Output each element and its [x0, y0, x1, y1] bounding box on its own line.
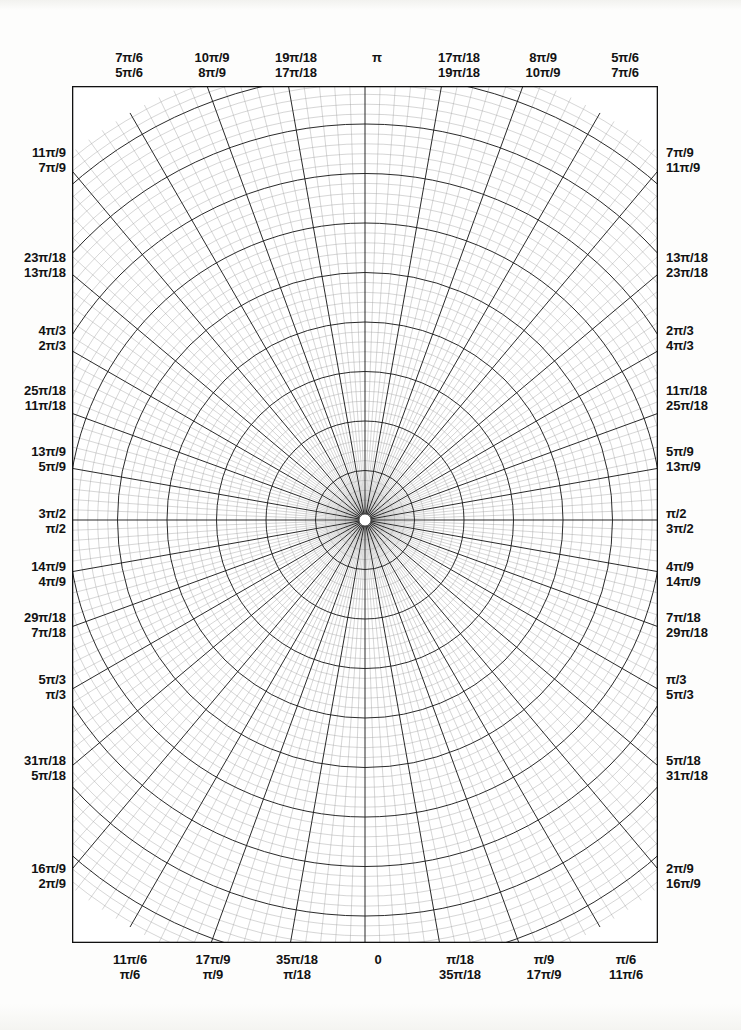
- angle-label-secondary: 14π/9: [666, 574, 701, 589]
- angle-label-primary: 5π/3: [38, 672, 66, 687]
- angle-label-secondary: 4π/3: [666, 338, 694, 353]
- angle-label-primary: π/3: [666, 672, 694, 687]
- angle-label-secondary: 7π/6: [611, 65, 639, 80]
- angle-label-secondary: 17π/9: [527, 967, 562, 982]
- angle-label-primary: 19π/18: [275, 50, 317, 65]
- angle-label-secondary: π/18: [276, 967, 318, 982]
- angle-label-secondary: 3π/2: [666, 521, 694, 536]
- angle-label-secondary: 13π/9: [666, 459, 701, 474]
- angle-label-primary: 7π/18: [666, 610, 708, 625]
- angle-label-bottom-4: π/1835π/18: [439, 952, 481, 982]
- angle-label-bottom-2: 35π/18π/18: [276, 952, 318, 982]
- angle-label-top-5: 8π/910π/9: [526, 50, 561, 80]
- angle-label-primary: 8π/9: [526, 50, 561, 65]
- angle-label-secondary: π/9: [196, 967, 231, 982]
- angle-label-left-6: 14π/94π/9: [31, 559, 66, 589]
- angle-label-primary: 31π/18: [24, 753, 66, 768]
- angle-label-primary: π/2: [666, 506, 694, 521]
- angle-label-secondary: π/2: [38, 521, 66, 536]
- angle-label-secondary: 7π/18: [24, 625, 66, 640]
- angle-label-secondary: π: [372, 50, 382, 65]
- angle-label-left-3: 25π/1811π/18: [24, 383, 66, 413]
- angle-label-right-10: 2π/916π/9: [666, 861, 701, 891]
- polar-grid-plot: [72, 86, 658, 943]
- angle-label-primary: 17π/18: [438, 50, 480, 65]
- angle-label-primary: 13π/9: [31, 444, 66, 459]
- angle-label-bottom-6: π/611π/6: [609, 952, 643, 982]
- angle-label-right-0: 7π/911π/9: [666, 145, 700, 175]
- angle-label-top-6: 5π/67π/6: [611, 50, 639, 80]
- angle-label-secondary: 5π/18: [24, 768, 66, 783]
- angle-label-primary: π/9: [527, 952, 562, 967]
- angle-label-primary: 23π/18: [24, 250, 66, 265]
- angle-label-primary: 5π/9: [666, 444, 701, 459]
- angle-label-left-7: 29π/187π/18: [24, 610, 66, 640]
- angle-label-right-7: 7π/1829π/18: [666, 610, 708, 640]
- angle-label-secondary: 2π/9: [31, 876, 66, 891]
- angle-label-primary: 16π/9: [31, 861, 66, 876]
- angle-label-bottom-3: 0: [374, 952, 381, 967]
- angle-label-primary: 14π/9: [31, 559, 66, 574]
- angle-label-secondary: 31π/18: [666, 768, 708, 783]
- angle-label-primary: 25π/18: [24, 383, 66, 398]
- angle-label-secondary: 2π/3: [38, 338, 66, 353]
- angle-label-secondary: 19π/18: [438, 65, 480, 80]
- angle-label-secondary: 11π/18: [24, 398, 66, 413]
- paper-sheet: 7π/65π/610π/98π/919π/1817π/18π17π/1819π/…: [0, 0, 741, 1030]
- angle-label-top-4: 17π/1819π/18: [438, 50, 480, 80]
- angle-label-bottom-0: 11π/6π/6: [113, 952, 147, 982]
- angle-label-secondary: 11π/6: [609, 967, 643, 982]
- angle-label-primary: 10π/9: [195, 50, 230, 65]
- angle-label-left-2: 4π/32π/3: [38, 323, 66, 353]
- angle-label-right-8: π/35π/3: [666, 672, 694, 702]
- angle-label-secondary: 7π/9: [32, 160, 66, 175]
- angle-label-primary: 17π/9: [196, 952, 231, 967]
- angle-label-secondary: 4π/9: [31, 574, 66, 589]
- angle-label-top-0: 7π/65π/6: [115, 50, 143, 80]
- angle-label-secondary: 13π/18: [24, 265, 66, 280]
- angle-label-bottom-1: 17π/9π/9: [196, 952, 231, 982]
- angle-label-secondary: 5π/3: [666, 687, 694, 702]
- angle-label-bottom-5: π/917π/9: [527, 952, 562, 982]
- angle-label-right-5: π/23π/2: [666, 506, 694, 536]
- angle-label-primary: 4π/9: [666, 559, 701, 574]
- angle-label-primary: 11π/9: [32, 145, 66, 160]
- angle-label-primary: 35π/18: [276, 952, 318, 967]
- angle-label-primary: 11π/18: [666, 383, 708, 398]
- angle-label-secondary: 29π/18: [666, 625, 708, 640]
- angle-label-primary: 2π/9: [666, 861, 701, 876]
- polar-grid-svg: [72, 86, 658, 943]
- angle-label-left-10: 16π/92π/9: [31, 861, 66, 891]
- angle-label-primary: 29π/18: [24, 610, 66, 625]
- angle-label-primary: 7π/9: [666, 145, 700, 160]
- angle-label-top-3: π: [372, 50, 382, 65]
- angle-label-top-1: 10π/98π/9: [195, 50, 230, 80]
- angle-label-secondary: 8π/9: [195, 65, 230, 80]
- angle-label-right-3: 11π/1825π/18: [666, 383, 708, 413]
- angle-label-secondary: 10π/9: [526, 65, 561, 80]
- angle-label-primary: 13π/18: [666, 250, 708, 265]
- angle-label-secondary: 5π/6: [115, 65, 143, 80]
- angle-label-primary: 0: [374, 952, 381, 967]
- angle-label-primary: π/18: [439, 952, 481, 967]
- angle-label-left-5: 3π/2π/2: [38, 506, 66, 536]
- angle-label-right-4: 5π/913π/9: [666, 444, 701, 474]
- angle-label-left-0: 11π/97π/9: [32, 145, 66, 175]
- angle-label-primary: 3π/2: [38, 506, 66, 521]
- angle-label-secondary: 23π/18: [666, 265, 708, 280]
- angle-label-primary: 5π/6: [611, 50, 639, 65]
- angle-label-secondary: π/6: [113, 967, 147, 982]
- angle-label-right-6: 4π/914π/9: [666, 559, 701, 589]
- angle-label-primary: π/6: [609, 952, 643, 967]
- angle-label-primary: 11π/6: [113, 952, 147, 967]
- angle-label-left-1: 23π/1813π/18: [24, 250, 66, 280]
- angle-label-secondary: 17π/18: [275, 65, 317, 80]
- angle-label-primary: 5π/18: [666, 753, 708, 768]
- angle-label-left-9: 31π/185π/18: [24, 753, 66, 783]
- angle-label-left-4: 13π/95π/9: [31, 444, 66, 474]
- angle-label-left-8: 5π/3π/3: [38, 672, 66, 702]
- angle-label-primary: 4π/3: [38, 323, 66, 338]
- angle-label-secondary: 11π/9: [666, 160, 700, 175]
- angle-label-primary: 7π/6: [115, 50, 143, 65]
- angle-label-primary: 2π/3: [666, 323, 694, 338]
